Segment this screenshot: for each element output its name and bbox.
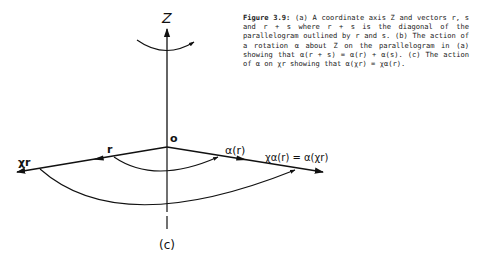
caption-text: (a) A coordinate axis Z and vectors r, s… xyxy=(243,13,469,68)
figure-caption: Figure 3.9: (a) A coordinate axis Z and … xyxy=(243,13,469,68)
vector-r-label: r xyxy=(107,143,113,156)
vector-xr-label: χr xyxy=(18,156,31,169)
vector-xr xyxy=(17,147,167,172)
figure-number: Figure 3.9: xyxy=(243,13,290,22)
vector-alpha-r-label: α(r) xyxy=(225,144,245,157)
small-rotation-arc xyxy=(114,157,218,171)
rotation-indicator-arc xyxy=(137,40,194,51)
vector-x-alpha-r-label: χα(r) = α(χr) xyxy=(265,152,328,163)
origin-label: o xyxy=(170,132,178,145)
panel-label: (c) xyxy=(159,238,175,252)
vector-r-arrowhead xyxy=(93,156,104,161)
axis-label-z: Z xyxy=(161,10,172,26)
